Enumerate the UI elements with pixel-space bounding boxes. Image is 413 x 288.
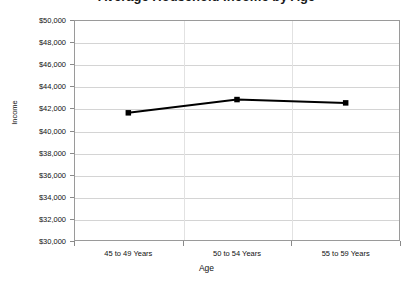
y-axis-tick-label: $30,000: [0, 237, 66, 246]
data-point-marker: [126, 110, 132, 116]
y-axis-tick-label: $34,000: [0, 192, 66, 201]
x-axis-title: Age: [0, 263, 413, 273]
x-axis-tick-label: 45 to 49 Years: [104, 249, 152, 258]
x-axis-tick-label: 50 to 54 Years: [213, 249, 261, 258]
x-axis-tick-mark: [400, 241, 401, 246]
x-axis-tick-label: 55 to 59 Years: [322, 249, 370, 258]
x-axis-tick-mark: [183, 241, 184, 246]
x-axis-tick-mark: [74, 241, 75, 246]
data-series-layer: [74, 20, 400, 241]
line-chart: Average Household Income by Age $50,000$…: [0, 0, 413, 288]
y-axis-tick-label: $36,000: [0, 170, 66, 179]
y-axis-tick-label: $46,000: [0, 60, 66, 69]
y-axis-tick-label: $32,000: [0, 214, 66, 223]
y-axis-tick-label: $48,000: [0, 38, 66, 47]
data-point-marker: [343, 100, 349, 106]
y-axis-title: Income: [10, 83, 19, 143]
data-point-marker: [234, 97, 240, 103]
y-axis-tick-label: $38,000: [0, 148, 66, 157]
y-axis-tick-label: $50,000: [0, 16, 66, 25]
x-axis-tick-mark: [291, 241, 292, 246]
